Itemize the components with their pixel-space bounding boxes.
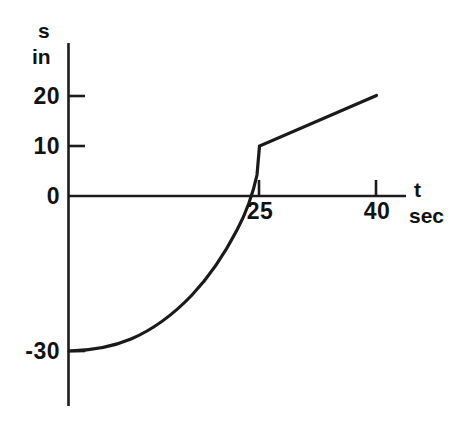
x-tick-label-40: 40	[352, 200, 402, 223]
y-tick-label-20: 20	[8, 85, 60, 108]
x-axis-unit-label: sec	[409, 205, 444, 226]
displacement-curve	[69, 96, 377, 352]
x-axis-variable-label: t	[414, 179, 421, 200]
y-tick-label-10: 10	[8, 135, 60, 158]
y-tick-label-0: 0	[8, 185, 60, 208]
x-tick-label-25: 25	[235, 200, 285, 223]
graph-figure: s in 20 10 0 -30 25 40 t sec	[0, 0, 464, 425]
y-axis-unit-label: in	[32, 46, 51, 67]
y-tick-label-neg30: -30	[2, 340, 60, 363]
y-axis-variable-label: s	[38, 20, 50, 41]
